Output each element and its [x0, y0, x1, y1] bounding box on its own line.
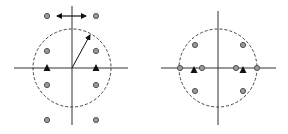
left-constellation-diagram	[14, 6, 128, 125]
constellation-point-dot	[44, 13, 49, 18]
constellation-point-dot	[93, 13, 98, 18]
constellation-point-dot	[93, 48, 98, 53]
constellation-point-dot	[240, 88, 245, 93]
constellation-point-dot	[254, 65, 259, 70]
constellation-point-dot	[199, 65, 204, 70]
radius-arrow-icon	[72, 35, 90, 68]
triangle-marker-icon	[240, 66, 247, 73]
constellation-point-dot	[233, 65, 238, 70]
constellation-point-dot	[44, 117, 49, 122]
constellation-point-dot	[93, 117, 98, 122]
constellation-point-dot	[192, 88, 197, 93]
constellation-point-dot	[240, 42, 245, 47]
diagram-canvas	[0, 0, 288, 134]
constellation-point-dot	[93, 82, 98, 87]
constellation-point-dot	[44, 48, 49, 53]
right-constellation-diagram	[161, 11, 276, 125]
constellation-point-dot	[192, 42, 197, 47]
constellation-point-dot	[177, 65, 182, 70]
triangle-marker-icon	[191, 66, 198, 73]
constellation-point-dot	[44, 82, 49, 87]
